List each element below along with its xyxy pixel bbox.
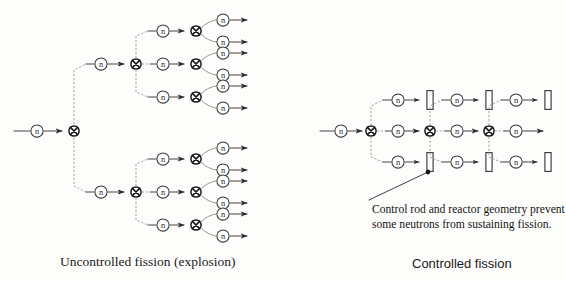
neutron-node <box>510 125 522 137</box>
neutron-node <box>510 156 522 168</box>
control-rod <box>545 91 551 110</box>
fission-node <box>69 126 79 136</box>
control-rod <box>486 91 492 110</box>
neutron-node <box>392 125 404 137</box>
neutron-node <box>335 125 347 137</box>
gen1-upper <box>86 58 141 70</box>
gen3-lower-absorbed <box>501 153 551 172</box>
neutron-node <box>95 58 107 70</box>
gen2-unit <box>148 20 216 42</box>
neutron-node <box>451 156 463 168</box>
neutron-node <box>392 156 404 168</box>
fission-node <box>366 126 376 136</box>
gen0-group <box>320 125 376 137</box>
gen2-unit <box>150 53 216 75</box>
fission-node <box>484 126 494 136</box>
neutron-node <box>510 94 522 106</box>
gen2-upper-absorbed <box>442 91 492 110</box>
control-rod <box>486 153 492 172</box>
gen1-upper-absorbed <box>383 91 433 110</box>
controlled-panel <box>320 91 551 200</box>
gen2-unit <box>148 86 216 108</box>
gen2-middle <box>445 125 494 137</box>
gen2-lower-absorbed <box>442 153 492 172</box>
neutron-node <box>392 94 404 106</box>
terminal-neutrons <box>217 14 247 242</box>
control-rod <box>545 153 551 172</box>
neutron-node <box>451 125 463 137</box>
neutron-node <box>157 58 169 70</box>
neutron-node <box>95 186 107 198</box>
fission-node <box>191 187 201 197</box>
neutron-node <box>451 94 463 106</box>
neutron-node <box>157 25 169 37</box>
neutron-node <box>157 153 169 165</box>
fission-node <box>191 92 201 102</box>
gen2-unit <box>148 148 216 170</box>
uncontrolled-panel <box>14 14 247 242</box>
caption-uncontrolled: Uncontrolled fission (explosion) <box>60 254 235 270</box>
neutron-node <box>157 186 169 198</box>
gen1-middle <box>386 125 435 137</box>
gen2-unit <box>150 181 216 203</box>
neutron-node <box>157 219 169 231</box>
annotation-leader-line <box>369 172 428 200</box>
neutron-node <box>31 125 43 137</box>
figure-canvas: n <box>0 0 566 281</box>
control-rod <box>427 91 433 110</box>
fission-node <box>191 154 201 164</box>
fission-diagram: n <box>0 0 566 281</box>
control-rod-annotation: Control rod and reactor geometry prevent… <box>372 203 566 233</box>
fission-node <box>131 187 141 197</box>
fission-node <box>191 26 201 36</box>
gen3-middle-sustained <box>504 125 543 137</box>
gen2-unit <box>148 214 216 236</box>
fission-node <box>131 59 141 69</box>
neutron-node <box>157 91 169 103</box>
caption-controlled: Controlled fission <box>412 256 512 271</box>
fission-node <box>191 59 201 69</box>
fission-node <box>425 126 435 136</box>
control-rod-annotated <box>427 153 433 172</box>
gen1-lower-absorbed <box>383 153 433 172</box>
fission-node <box>191 220 201 230</box>
gen1-lower <box>86 186 141 198</box>
gen3-upper-absorbed <box>501 91 551 110</box>
gen0-group <box>14 125 79 137</box>
